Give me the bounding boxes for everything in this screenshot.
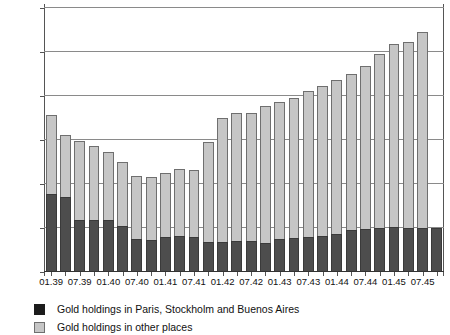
x-axis-tick-mark	[208, 272, 209, 276]
x-axis-tick-mark	[151, 272, 152, 276]
y-axis-tick-mark	[40, 140, 44, 141]
bar-segment-paris-stockholm-buenos-aires	[189, 237, 200, 272]
x-axis-tick-mark	[180, 272, 181, 276]
y-axis-tick-mark	[40, 96, 44, 97]
y-axis-tick-mark	[40, 228, 44, 229]
y-axis-tick-mark	[40, 52, 44, 53]
bar-column	[60, 135, 71, 273]
bar-column	[303, 91, 314, 273]
bar-column	[403, 42, 414, 272]
bar-segment-paris-stockholm-buenos-aires	[360, 229, 371, 272]
bar-segment-paris-stockholm-buenos-aires	[174, 236, 185, 272]
bar-segment-paris-stockholm-buenos-aires	[317, 236, 328, 272]
legend-item: Gold holdings in Paris, Stockholm and Bu…	[0, 300, 450, 318]
legend-label: Gold holdings in other places	[57, 321, 192, 333]
bar-segment-paris-stockholm-buenos-aires	[389, 227, 400, 272]
bar-column	[374, 54, 385, 272]
bar-column	[46, 115, 57, 272]
bar-segment-paris-stockholm-buenos-aires	[246, 241, 257, 272]
bar-segment-paris-stockholm-buenos-aires	[103, 220, 114, 272]
bar-segment-paris-stockholm-buenos-aires	[374, 228, 385, 272]
bar-segment-paris-stockholm-buenos-aires	[231, 241, 242, 272]
bar-segment-paris-stockholm-buenos-aires	[203, 242, 214, 272]
legend-item: Gold holdings in other places	[0, 318, 450, 335]
bar-column	[260, 106, 271, 272]
bar-segment-paris-stockholm-buenos-aires	[117, 226, 128, 272]
bar-column	[417, 32, 428, 272]
x-axis-tick-mark	[237, 272, 238, 276]
chart-legend: Gold holdings in Paris, Stockholm and Bu…	[0, 300, 450, 335]
bar-column	[331, 80, 342, 273]
bar-column	[117, 162, 128, 272]
legend-swatch-light	[34, 322, 45, 333]
x-axis-tick-label: 07.45	[405, 277, 441, 287]
bar-segment-paris-stockholm-buenos-aires	[289, 238, 300, 272]
bar-segment-paris-stockholm-buenos-aires	[403, 228, 414, 272]
x-axis-tick-mark	[94, 272, 95, 276]
bar-column	[203, 142, 214, 272]
x-axis-tick-mark	[123, 272, 124, 276]
x-axis: 01.3907.3901.4007.4001.4107.4101.4207.42…	[44, 272, 444, 294]
bar-column	[431, 228, 442, 272]
x-axis-tick-mark	[380, 272, 381, 276]
bar-column	[389, 44, 400, 272]
bar-segment-paris-stockholm-buenos-aires	[146, 240, 157, 272]
bar-column	[189, 170, 200, 272]
bars-group	[44, 8, 444, 272]
bar-column	[217, 118, 228, 272]
bar-column	[160, 173, 171, 272]
x-axis-tick-mark	[65, 272, 66, 276]
legend-label: Gold holdings in Paris, Stockholm and Bu…	[57, 303, 299, 315]
bar-segment-paris-stockholm-buenos-aires	[46, 194, 57, 272]
x-axis-tick-mark	[265, 272, 266, 276]
bar-column	[174, 169, 185, 272]
bar-column	[289, 98, 300, 272]
bar-column	[89, 146, 100, 273]
bar-column	[74, 141, 85, 272]
legend-swatch-dark	[34, 304, 45, 315]
bar-segment-paris-stockholm-buenos-aires	[160, 237, 171, 272]
bar-segment-paris-stockholm-buenos-aires	[89, 220, 100, 272]
bar-column	[317, 86, 328, 272]
x-axis-tick-mark	[323, 272, 324, 276]
bar-segment-paris-stockholm-buenos-aires	[274, 239, 285, 272]
x-axis-tick-mark	[294, 272, 295, 276]
bar-segment-paris-stockholm-buenos-aires	[131, 239, 142, 272]
bar-column	[131, 176, 142, 272]
x-axis-tick-mark	[437, 272, 438, 276]
y-axis-tick-mark	[40, 8, 44, 9]
bar-segment-paris-stockholm-buenos-aires	[74, 220, 85, 272]
gold-holdings-stacked-bar-chart: 020040060080010001200 01.3907.3901.4007.…	[0, 0, 450, 335]
bar-column	[246, 113, 257, 273]
bar-segment-paris-stockholm-buenos-aires	[217, 242, 228, 272]
y-axis-tick-mark	[40, 184, 44, 185]
x-axis-tick-mark	[408, 272, 409, 276]
bar-column	[146, 177, 157, 272]
x-axis-tick-mark	[351, 272, 352, 276]
bar-column	[274, 102, 285, 273]
bar-segment-paris-stockholm-buenos-aires	[431, 228, 442, 272]
bar-column	[346, 74, 357, 272]
bar-column	[231, 113, 242, 273]
bar-segment-paris-stockholm-buenos-aires	[417, 228, 428, 272]
bar-segment-paris-stockholm-buenos-aires	[60, 197, 71, 272]
bar-column	[103, 152, 114, 272]
bar-segment-paris-stockholm-buenos-aires	[260, 243, 271, 272]
bar-segment-paris-stockholm-buenos-aires	[331, 234, 342, 273]
bar-segment-paris-stockholm-buenos-aires	[346, 230, 357, 272]
plot-area	[44, 8, 444, 272]
bar-column	[360, 66, 371, 272]
bar-segment-paris-stockholm-buenos-aires	[303, 237, 314, 272]
